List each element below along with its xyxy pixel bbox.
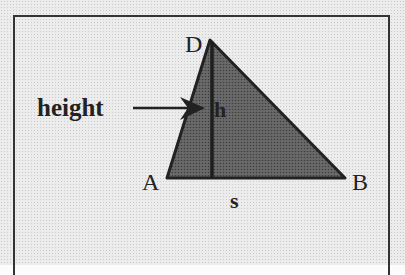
height-text-label: height [37, 94, 104, 121]
vertex-b-label: B [352, 169, 368, 195]
vertex-d-label: D [185, 31, 202, 57]
vertex-a-label: A [142, 169, 160, 195]
base-symbol-label: s [230, 188, 239, 213]
height-symbol-label: h [214, 97, 226, 122]
